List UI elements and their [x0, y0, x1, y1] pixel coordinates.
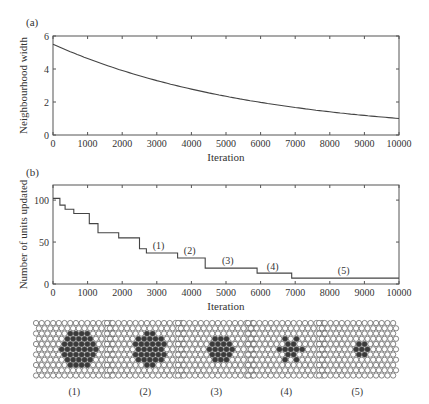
inactive-unit: [127, 320, 132, 325]
inactive-unit: [265, 326, 270, 331]
inactive-unit: [368, 320, 373, 325]
active-unit: [159, 357, 164, 362]
inactive-unit: [345, 362, 350, 367]
inactive-unit: [359, 357, 364, 362]
y-tick-label: 0: [44, 130, 49, 141]
active-unit: [156, 352, 161, 357]
inactive-unit: [227, 320, 232, 325]
inactive-unit: [365, 368, 370, 373]
active-unit: [70, 336, 75, 341]
active-unit: [144, 352, 149, 357]
x-tick-label: 9000: [354, 287, 374, 298]
inactive-unit: [122, 341, 127, 346]
stage-annotation: (4): [267, 261, 279, 273]
inactive-unit: [53, 357, 58, 362]
inactive-unit: [124, 336, 129, 341]
inactive-unit: [379, 341, 384, 346]
inactive-unit: [139, 362, 144, 367]
hex-grid-label: (1): [68, 386, 80, 398]
inactive-unit: [156, 373, 161, 378]
inactive-unit: [181, 362, 186, 367]
x-tick-label: 2000: [112, 138, 132, 149]
inactive-unit: [271, 368, 276, 373]
inactive-unit: [235, 326, 240, 331]
inactive-unit: [33, 352, 38, 357]
active-unit: [139, 341, 144, 346]
inactive-unit: [227, 373, 232, 378]
active-unit: [362, 352, 367, 357]
inactive-unit: [365, 326, 370, 331]
inactive-unit: [42, 357, 47, 362]
inactive-unit: [257, 362, 262, 367]
inactive-unit: [99, 326, 104, 331]
inactive-unit: [161, 331, 166, 336]
inactive-unit: [170, 357, 175, 362]
inactive-unit: [104, 373, 109, 378]
inactive-unit: [184, 357, 189, 362]
inactive-unit: [48, 336, 53, 341]
inactive-unit: [127, 373, 132, 378]
inactive-unit: [170, 368, 175, 373]
inactive-unit: [359, 336, 364, 341]
inactive-unit: [328, 352, 333, 357]
inactive-unit: [96, 373, 101, 378]
hex-grid-label: (3): [210, 386, 222, 398]
inactive-unit: [119, 357, 124, 362]
inactive-unit: [268, 362, 273, 367]
inactive-unit: [113, 357, 118, 362]
x-tick-label: 10000: [387, 138, 412, 149]
inactive-unit: [193, 320, 198, 325]
inactive-unit: [190, 347, 195, 352]
inactive-unit: [181, 341, 186, 346]
inactive-unit: [339, 320, 344, 325]
inactive-unit: [184, 347, 189, 352]
inactive-unit: [62, 320, 67, 325]
inactive-unit: [248, 357, 253, 362]
x-tick-label: 5000: [216, 287, 236, 298]
inactive-unit: [316, 320, 321, 325]
inactive-unit: [36, 326, 41, 331]
inactive-unit: [181, 331, 186, 336]
active-unit: [93, 347, 98, 352]
inactive-unit: [48, 347, 53, 352]
inactive-unit: [82, 368, 87, 373]
inactive-unit: [204, 373, 209, 378]
active-unit: [224, 347, 229, 352]
inactive-unit: [232, 362, 237, 367]
inactive-unit: [257, 352, 262, 357]
inactive-unit: [130, 357, 135, 362]
inactive-unit: [331, 336, 336, 341]
x-tick-label: 6000: [251, 287, 271, 298]
active-unit: [156, 341, 161, 346]
inactive-unit: [308, 373, 313, 378]
inactive-unit: [181, 352, 186, 357]
active-unit: [282, 357, 287, 362]
inactive-unit: [382, 326, 387, 331]
inactive-unit: [274, 373, 279, 378]
inactive-unit: [280, 341, 285, 346]
active-unit: [68, 352, 73, 357]
inactive-unit: [181, 320, 186, 325]
inactive-unit: [339, 362, 344, 367]
inactive-unit: [368, 362, 373, 367]
inactive-unit: [322, 320, 327, 325]
inactive-unit: [119, 336, 124, 341]
inactive-unit: [96, 352, 101, 357]
inactive-unit: [291, 331, 296, 336]
inactive-unit: [297, 331, 302, 336]
inactive-unit: [110, 320, 115, 325]
active-unit: [76, 347, 81, 352]
inactive-unit: [33, 362, 38, 367]
inactive-unit: [51, 362, 56, 367]
inactive-unit: [393, 326, 398, 331]
inactive-unit: [260, 368, 265, 373]
inactive-unit: [116, 341, 121, 346]
inactive-unit: [130, 347, 135, 352]
active-unit: [90, 341, 95, 346]
inactive-unit: [56, 320, 61, 325]
inactive-unit: [393, 357, 398, 362]
inactive-unit: [291, 320, 296, 325]
inactive-unit: [232, 373, 237, 378]
inactive-unit: [362, 320, 367, 325]
inactive-unit: [251, 320, 256, 325]
